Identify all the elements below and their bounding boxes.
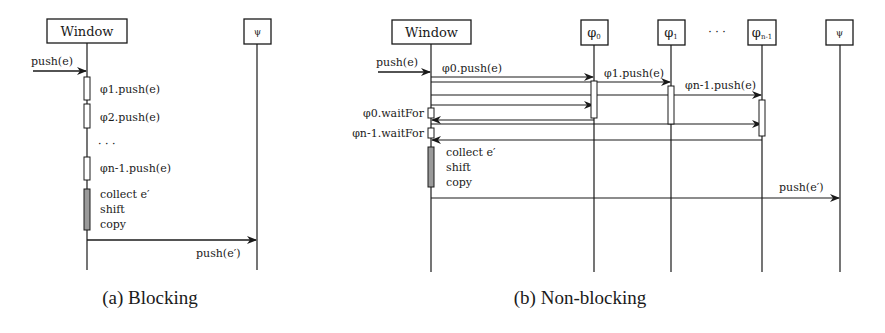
participant-psi-a: ψ [244, 19, 271, 44]
activation-bar-phi0 [591, 81, 597, 118]
wait-label: φn-1.waitFor [352, 127, 425, 140]
wait-bar [428, 108, 434, 118]
message-label: φn-1.push(e) [685, 79, 756, 92]
activation-bar [84, 104, 90, 128]
message-label: push(e′) [779, 181, 823, 194]
participant-label: φ [664, 25, 673, 40]
participant-phi1: φ1 [658, 20, 685, 45]
participant-phi0: φ0 [581, 20, 608, 45]
op-label: shift [446, 161, 471, 174]
participant-label: Window [405, 25, 458, 40]
wait-label: φ0.waitFor [363, 107, 425, 120]
participant-subscript: n-1 [761, 33, 772, 41]
caption-b: (b) Non-blocking [514, 287, 647, 309]
message-label: φ1.push(e) [604, 67, 664, 80]
compute-bar [428, 147, 434, 187]
participant-label: Window [61, 24, 114, 39]
message-label: push(e) [31, 55, 73, 68]
activation-bar [84, 77, 90, 100]
message-label: φ0.push(e) [442, 62, 502, 75]
participant-label: φ [752, 25, 761, 40]
ellipsis: · · · [98, 138, 115, 151]
step-label: φn-1.push(e) [100, 162, 171, 175]
participant-subscript: 1 [673, 33, 677, 41]
step-label: φ1.push(e) [100, 83, 160, 96]
wait-bar [428, 128, 434, 138]
participant-ellipsis: · · · [708, 26, 725, 39]
op-label: shift [100, 203, 125, 216]
participant-label: ψ [254, 27, 261, 37]
activation-bar [84, 157, 90, 180]
message-label: push(e′) [196, 247, 240, 260]
participant-window-b: Window [392, 20, 471, 44]
op-label: collect e′ [446, 146, 496, 159]
op-label: copy [446, 176, 473, 189]
panel-blocking: Window ψ push(e) φ1.push(e) φ2.push(e) ·… [31, 19, 271, 309]
sequence-diagram: Window ψ push(e) φ1.push(e) φ2.push(e) ·… [0, 0, 885, 333]
step-label: φ2.push(e) [100, 111, 160, 124]
participant-window-a: Window [47, 19, 127, 43]
participant-label: ψ [836, 28, 843, 38]
activation-bar-phin [759, 100, 765, 136]
activation-bar-phi1 [668, 86, 674, 124]
compute-bar [84, 189, 90, 230]
panel-non-blocking: Window φ0 φ1 · · · φn-1 ψ push(e) [352, 20, 853, 309]
message-label: push(e) [376, 56, 418, 69]
op-label: collect e′ [100, 188, 150, 201]
participant-label: φ [587, 25, 596, 40]
op-label: copy [100, 218, 127, 231]
participant-phin-1: φn-1 [748, 20, 776, 45]
participant-subscript: 0 [596, 33, 600, 41]
caption-a: (a) Blocking [102, 287, 198, 309]
participant-psi-b: ψ [826, 20, 853, 45]
